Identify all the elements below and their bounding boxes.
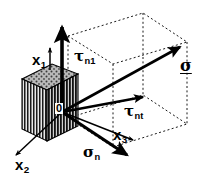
axis-label-x1: x1 xyxy=(32,52,46,67)
tau-nt-label: τnt xyxy=(124,104,143,119)
stress-vector-diagram: x1 x2 x3 τn1 τnt σn σ 0 xyxy=(0,0,201,182)
diagram-canvas xyxy=(0,0,201,182)
sigma-vector-label: σ xyxy=(180,58,192,74)
sigma-n-label: σn xyxy=(83,145,100,160)
stippled-hatched-block xyxy=(22,64,78,141)
origin-label: 0 xyxy=(55,103,63,114)
tau-n1-label: τn1 xyxy=(74,49,95,64)
axis-label-x3: x3 xyxy=(113,127,127,142)
block-front-face xyxy=(22,79,47,141)
axis-label-x2: x2 xyxy=(15,157,29,172)
